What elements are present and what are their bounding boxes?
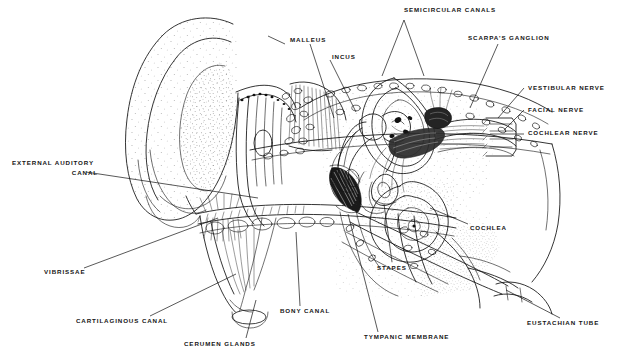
label-semicircular-canals: SEMICIRCULAR CANALS: [404, 5, 496, 15]
label-incus: INCUS: [332, 53, 356, 62]
label-cartilaginous-canal: CARTILAGINOUS CANAL: [76, 317, 168, 326]
label-eustachian-tube: EUSTACHIAN TUBE: [527, 319, 599, 328]
label-bony-canal: BONY CANAL: [280, 307, 330, 316]
ear-anatomy-figure: SEMICIRCULAR CANALS MALLEUS INCUS SCARPA…: [0, 0, 618, 358]
ear-anatomy-drawing: [0, 0, 618, 358]
label-cerumen-glands: CERUMEN GLANDS: [184, 340, 256, 349]
label-external-auditory-canal: EXTERNAL AUDITORY CANAL: [12, 158, 104, 177]
label-tympanic-membrane: TYMPANIC MEMBRANE: [364, 333, 449, 342]
label-cochlear-nerve: COCHLEAR NERVE: [528, 129, 599, 138]
label-external-auditory-canal-line1: EXTERNAL AUDITORY: [12, 158, 104, 168]
label-vestibular-nerve: VESTIBULAR NERVE: [528, 84, 605, 93]
label-malleus: MALLEUS: [290, 36, 326, 45]
label-vibrissae: VIBRISSAE: [44, 268, 85, 277]
label-external-auditory-canal-line2: CANAL: [12, 168, 104, 178]
label-cochlea: COCHLEA: [470, 224, 507, 233]
label-facial-nerve: FACIAL NERVE: [528, 106, 584, 115]
label-stapes: STAPES: [377, 264, 407, 273]
label-scarpas-ganglion: SCARPA'S GANGLION: [468, 34, 550, 43]
